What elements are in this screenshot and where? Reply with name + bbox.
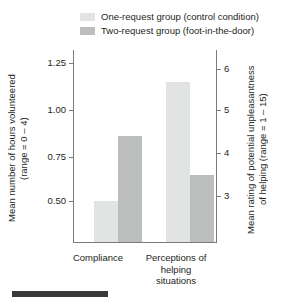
- y-ticklabel-right-1: 6: [224, 64, 229, 74]
- legend-swatch-one-request: [80, 13, 95, 21]
- y-tick-right-4: [216, 196, 221, 197]
- y-ticklabel-right-4: 3: [224, 191, 229, 201]
- legend-label-two-request: Two-request group (foot-in-the-door): [101, 25, 254, 36]
- x-category-label-compliance: Compliance: [62, 252, 134, 264]
- bar-compliance-one-request: [94, 201, 118, 242]
- y-ticklabel-left-1: 1.25: [48, 58, 67, 68]
- y-tick-right-3: [216, 153, 221, 154]
- y-tick-right-1: [216, 69, 221, 70]
- bar-compliance-two-request: [118, 136, 142, 242]
- bar-perceptions-one-request: [166, 82, 190, 243]
- legend-item-two-request: Two-request group (foot-in-the-door): [80, 24, 286, 37]
- footer-rule: [12, 291, 108, 297]
- y-tick-left-1: [69, 63, 74, 64]
- y-tick-left-3: [69, 157, 74, 158]
- chart-figure: One-request group (control condition) Tw…: [0, 0, 286, 301]
- chart-legend: One-request group (control condition) Tw…: [80, 10, 286, 38]
- y-axis-left-title: Mean number of hours volunteered (range …: [6, 56, 29, 241]
- y-tick-right-2: [216, 110, 221, 111]
- y-tick-left-2: [69, 110, 74, 111]
- legend-swatch-two-request: [80, 27, 95, 35]
- legend-label-one-request: One-request group (control condition): [101, 11, 259, 22]
- plot-area: 1.25 1.00 0.75 0.50 6 5 4 3: [73, 50, 217, 243]
- y-ticklabel-left-3: 0.75: [48, 152, 67, 162]
- legend-item-one-request: One-request group (control condition): [80, 10, 286, 23]
- y-ticklabel-left-2: 1.00: [48, 105, 67, 115]
- y-tick-left-4: [69, 201, 74, 202]
- y-ticklabel-right-3: 4: [224, 148, 229, 158]
- bar-perceptions-two-request: [190, 175, 214, 242]
- x-category-label-perceptions: Perceptions of helping situations: [140, 252, 212, 287]
- y-ticklabel-left-4: 0.50: [48, 196, 67, 206]
- y-ticklabel-right-2: 5: [224, 105, 229, 115]
- y-axis-right-title: Mean rating of potential unpleasantness …: [245, 52, 268, 247]
